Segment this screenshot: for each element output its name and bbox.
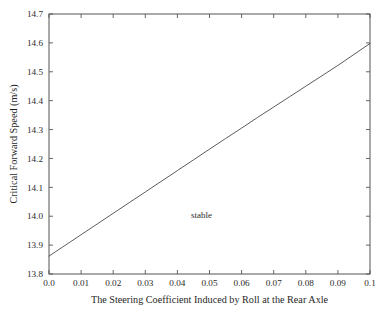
y-tick-label: 14.5 xyxy=(27,67,43,77)
plot-background xyxy=(49,14,370,274)
x-tick-label: 0.08 xyxy=(298,278,314,288)
chart-figure: 0.00.010.020.030.040.050.060.070.080.090… xyxy=(0,0,384,314)
y-tick-label: 14.3 xyxy=(27,125,43,135)
y-tick-label: 14.1 xyxy=(27,183,43,193)
x-tick-label: 0.09 xyxy=(330,278,346,288)
x-tick-label: 0.05 xyxy=(201,278,217,288)
y-tick-label: 14.4 xyxy=(27,96,43,106)
y-tick-label: 13.8 xyxy=(27,269,43,279)
x-tick-label: 0.03 xyxy=(137,278,153,288)
y-axis-title: Critical Forward Speed (m/s) xyxy=(8,84,20,203)
x-tick-label: 0.0 xyxy=(43,278,55,288)
x-tick-label: 0.06 xyxy=(234,278,250,288)
stable-region-label: stable xyxy=(191,210,212,220)
x-axis-title: The Steering Coefficient Induced by Roll… xyxy=(91,294,329,305)
x-tick-label: 0.1 xyxy=(364,278,376,288)
x-tick-label: 0.01 xyxy=(73,278,89,288)
x-tick-label: 0.02 xyxy=(105,278,121,288)
y-tick-label: 14.0 xyxy=(27,211,43,221)
line-chart: 0.00.010.020.030.040.050.060.070.080.090… xyxy=(0,0,384,314)
x-tick-label: 0.04 xyxy=(169,278,185,288)
y-tick-label: 14.7 xyxy=(27,9,43,19)
y-tick-label: 13.9 xyxy=(27,240,43,250)
y-axis-tick-labels: 13.813.914.014.114.214.314.414.514.614.7 xyxy=(27,9,43,279)
y-tick-label: 14.6 xyxy=(27,38,43,48)
y-tick-label: 14.2 xyxy=(27,154,43,164)
x-tick-label: 0.07 xyxy=(266,278,282,288)
x-axis-tick-labels: 0.00.010.020.030.040.050.060.070.080.090… xyxy=(43,278,376,288)
